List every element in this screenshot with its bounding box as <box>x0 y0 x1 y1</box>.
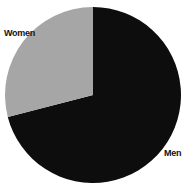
label-women: Women <box>4 28 35 38</box>
label-men: Men <box>164 148 181 158</box>
